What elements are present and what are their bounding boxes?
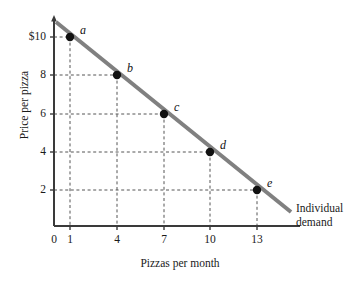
point-label-c: c bbox=[174, 101, 179, 113]
y-tick-label-10: $10 bbox=[2, 31, 46, 43]
x-tick-label-10: 10 bbox=[200, 234, 220, 246]
data-point-d[interactable] bbox=[206, 148, 214, 156]
point-label-a: a bbox=[80, 24, 86, 36]
point-label-d: d bbox=[220, 139, 226, 151]
x-tick-label-7: 7 bbox=[154, 234, 174, 246]
x-tick-label-1: 1 bbox=[60, 234, 80, 246]
data-point-b[interactable] bbox=[113, 71, 121, 79]
data-point-a[interactable] bbox=[66, 33, 74, 41]
x-axis-title: Pizzas per month bbox=[110, 258, 250, 270]
demand-curve-figure: $10 8 6 4 2 0 1 4 7 10 13 Price per pizz… bbox=[0, 0, 360, 283]
y-axis-arrow-icon bbox=[51, 15, 57, 22]
demand-curve-label-line2: demand bbox=[296, 215, 343, 229]
demand-curve-label: Individual demand bbox=[296, 201, 343, 230]
point-label-b: b bbox=[127, 62, 133, 74]
guide-lines bbox=[54, 37, 257, 226]
data-point-e[interactable] bbox=[253, 186, 261, 194]
y-axis-title: Price per pizza bbox=[18, 71, 30, 139]
demand-curve-line bbox=[56, 22, 291, 212]
y-tick-label-2: 2 bbox=[2, 184, 46, 196]
data-point-c[interactable] bbox=[160, 110, 168, 118]
x-tick-label-13: 13 bbox=[247, 234, 267, 246]
point-label-e: e bbox=[267, 177, 272, 189]
x-tick-label-4: 4 bbox=[107, 234, 127, 246]
y-axis-title-wrap: Price per pizza bbox=[14, 55, 32, 155]
demand-curve-label-line1: Individual bbox=[296, 201, 343, 215]
